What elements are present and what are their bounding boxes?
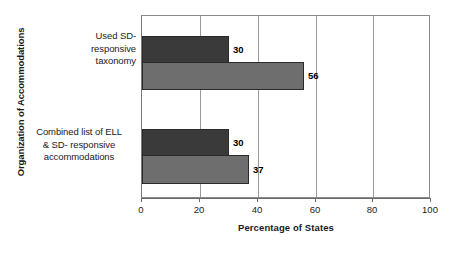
x-axis-line bbox=[141, 198, 431, 199]
category-label-1-line-2: accommodations bbox=[22, 151, 136, 164]
x-tick-label-20: 20 bbox=[179, 204, 219, 215]
category-label-0-line-2: taxonomy bbox=[36, 55, 136, 68]
y-axis-title: Organization of Accommodations bbox=[14, 2, 28, 202]
category-label-1-line-1: & SD- responsive bbox=[22, 139, 136, 152]
bar-value-cat1-series0: 30 bbox=[233, 137, 244, 148]
category-label-0-line-0: Used SD- bbox=[36, 30, 136, 43]
bar-chart: Organization of Accommodations Used SD- … bbox=[0, 0, 458, 256]
gridline-80 bbox=[373, 16, 374, 197]
x-axis-title: Percentage of States bbox=[141, 222, 431, 233]
category-label-0: Used SD- responsive taxonomy bbox=[36, 30, 136, 68]
x-tick-label-100: 100 bbox=[410, 204, 450, 215]
x-tick-label-40: 40 bbox=[237, 204, 277, 215]
gridline-60 bbox=[316, 16, 317, 197]
bar-value-cat0-series0: 30 bbox=[233, 44, 244, 55]
bar-cat1-series0 bbox=[142, 129, 229, 156]
x-tick-20 bbox=[199, 198, 200, 202]
x-tick-label-0: 0 bbox=[121, 204, 161, 215]
x-tick-40 bbox=[257, 198, 258, 202]
bar-value-cat0-series1: 56 bbox=[308, 70, 319, 81]
x-tick-0 bbox=[141, 198, 142, 202]
category-label-1-line-0: Combined list of ELL bbox=[22, 126, 136, 139]
category-label-0-line-1: responsive bbox=[36, 43, 136, 56]
x-tick-80 bbox=[372, 198, 373, 202]
plot-area: 30 56 30 37 bbox=[141, 15, 430, 198]
category-label-1: Combined list of ELL & SD- responsive ac… bbox=[22, 126, 136, 164]
bar-cat0-series0 bbox=[142, 36, 229, 63]
bar-cat1-series1 bbox=[142, 155, 249, 184]
x-tick-100 bbox=[430, 198, 431, 202]
x-tick-60 bbox=[315, 198, 316, 202]
x-tick-label-80: 80 bbox=[352, 204, 392, 215]
bar-cat0-series1 bbox=[142, 62, 304, 90]
bar-value-cat1-series1: 37 bbox=[253, 164, 264, 175]
x-tick-label-60: 60 bbox=[295, 204, 335, 215]
